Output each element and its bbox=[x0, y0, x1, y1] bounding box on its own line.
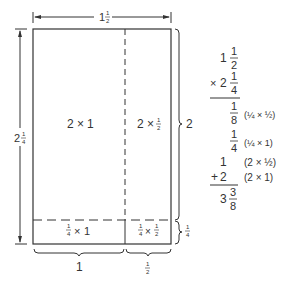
cell-top-right: 2 × 1 2 bbox=[137, 117, 161, 131]
svg-text:1: 1 bbox=[157, 117, 161, 123]
svg-text:1: 1 bbox=[139, 223, 143, 229]
cell-bottom-right: 1 4 × 1 2 bbox=[138, 223, 159, 237]
svg-text:2: 2 bbox=[137, 117, 144, 131]
bottom-brace-left bbox=[34, 249, 124, 256]
partial-1-note: (¼ × ½) bbox=[244, 110, 275, 120]
multiplicand-whole: 1 bbox=[220, 51, 227, 65]
multiplicand-num: 1 bbox=[231, 45, 237, 57]
left-dim-whole: 2 bbox=[14, 132, 20, 144]
result-den: 8 bbox=[230, 200, 236, 212]
left-dim-num: 1 bbox=[22, 131, 26, 137]
svg-text:1: 1 bbox=[155, 223, 159, 229]
top-dim-den: 2 bbox=[106, 18, 110, 24]
partial-3-value: 1 bbox=[220, 155, 227, 169]
result-num: 3 bbox=[230, 186, 236, 198]
partial-4-note: (2 × 1) bbox=[244, 172, 273, 183]
left-dim-den: 4 bbox=[22, 139, 26, 145]
svg-text:×: × bbox=[74, 225, 80, 237]
svg-text:1: 1 bbox=[87, 117, 94, 131]
cell-top-left: 2 × 1 bbox=[67, 117, 94, 131]
svg-text:×: × bbox=[147, 117, 154, 131]
multiply-sign: × bbox=[210, 77, 216, 89]
partial-1-num: 1 bbox=[231, 100, 237, 112]
area-model-diagram: 1 1 2 2 1 4 2 × 1 2 × 1 2 1 4 × 1 1 bbox=[0, 0, 288, 281]
svg-text:2: 2 bbox=[67, 117, 74, 131]
cell-bottom-left: 1 4 × 1 bbox=[66, 223, 90, 237]
partial-4-value: 2 bbox=[220, 170, 227, 184]
partial-2-den: 4 bbox=[231, 142, 237, 154]
svg-text:1: 1 bbox=[84, 225, 90, 237]
plus-sign: + bbox=[211, 170, 218, 184]
bottom-brace-left-label: 1 bbox=[76, 260, 83, 274]
bottom-brace-right bbox=[126, 249, 171, 256]
vertical-multiplication: 1 1 2 × 2 1 4 1 8 (¼ × ½) 1 4 (¼ × 1) 1 … bbox=[210, 45, 276, 212]
multiplier-num: 1 bbox=[231, 70, 237, 82]
svg-text:4: 4 bbox=[139, 231, 143, 237]
area-rectangle bbox=[33, 29, 171, 244]
right-brace-lower bbox=[175, 221, 182, 244]
right-brace-lower-den: 4 bbox=[186, 232, 190, 238]
svg-text:2: 2 bbox=[155, 231, 159, 237]
partial-3-note: (2 × ½) bbox=[244, 157, 276, 168]
right-brace-upper-label: 2 bbox=[186, 117, 193, 131]
svg-text:×: × bbox=[77, 117, 84, 131]
result-whole: 3 bbox=[220, 192, 227, 206]
top-dim-num: 1 bbox=[106, 10, 110, 16]
multiplier-whole: 2 bbox=[220, 76, 227, 90]
right-brace-lower-num: 1 bbox=[186, 224, 190, 230]
svg-text:2: 2 bbox=[157, 125, 161, 131]
bottom-brace-right-den: 2 bbox=[146, 269, 150, 275]
bottom-brace-right-num: 1 bbox=[146, 261, 150, 267]
svg-text:×: × bbox=[145, 226, 151, 237]
svg-text:1: 1 bbox=[67, 223, 71, 229]
partial-2-num: 1 bbox=[231, 128, 237, 140]
multiplier-den: 4 bbox=[231, 84, 237, 96]
right-brace-upper bbox=[175, 29, 182, 220]
partial-2-note: (¼ × 1) bbox=[244, 138, 273, 148]
top-dim-whole: 1 bbox=[99, 11, 105, 23]
partial-1-den: 8 bbox=[231, 114, 237, 126]
svg-text:4: 4 bbox=[67, 231, 71, 237]
